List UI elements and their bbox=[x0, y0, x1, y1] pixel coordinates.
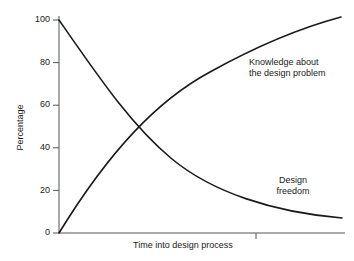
y-axis-ticks bbox=[53, 20, 59, 233]
chart-figure: 100 80 60 40 20 0 Percentage Time into d… bbox=[0, 0, 354, 261]
y-tick-label-20: 20 bbox=[28, 186, 50, 195]
x-axis-title: Time into design process bbox=[133, 240, 233, 251]
y-tick-label-100: 100 bbox=[28, 15, 50, 24]
series-annotation-knowledge: Knowledge about the design problem bbox=[249, 57, 326, 79]
series-annotation-knowledge-line2: the design problem bbox=[249, 68, 326, 79]
series-annotation-knowledge-line1: Knowledge about bbox=[249, 57, 326, 68]
series-annotation-design-freedom: Design freedom bbox=[265, 175, 321, 197]
chart-plot-area bbox=[0, 0, 354, 261]
y-axis-title: Percentage bbox=[15, 92, 26, 164]
y-tick-label-60: 60 bbox=[28, 100, 50, 109]
series-annotation-design-freedom-line1: Design bbox=[265, 175, 321, 186]
series-annotation-design-freedom-line2: freedom bbox=[265, 186, 321, 197]
y-tick-label-40: 40 bbox=[28, 143, 50, 152]
series-line-knowledge bbox=[59, 17, 341, 233]
y-tick-label-0: 0 bbox=[28, 228, 50, 237]
y-tick-label-80: 80 bbox=[28, 58, 50, 67]
